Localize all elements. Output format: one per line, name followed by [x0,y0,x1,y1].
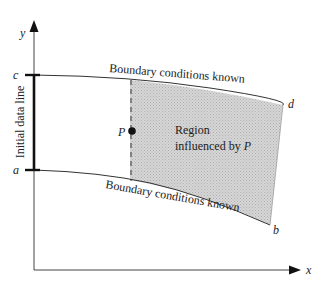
point-label-p: P [117,125,126,139]
point-label-d: d [288,97,295,111]
point-label-b: b [273,223,279,237]
x-axis-label: x [305,263,312,277]
region-label-line2: influenced by P [175,139,252,153]
domain-of-influence-diagram: y x c a d b P Initial data line Boundary… [0,0,318,285]
point-label-a: a [13,163,19,177]
point-p-marker [128,127,136,135]
point-label-c: c [13,68,19,82]
region-label-line1: Region [175,123,210,137]
top-boundary-label: Boundary conditions known [109,61,246,86]
y-axis-arrow-icon [30,20,39,32]
y-axis-label: y [19,26,26,40]
initial-data-line-label: Initial data line [13,86,27,159]
x-axis-arrow-icon [289,266,301,275]
